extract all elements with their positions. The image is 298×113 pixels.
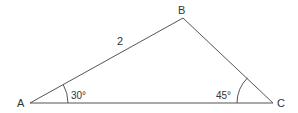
vertex-label-b: B <box>178 4 185 16</box>
angle-label-a: 30° <box>71 90 86 101</box>
side-ab <box>30 18 183 103</box>
triangle-diagram: A B C 2 30° 45° <box>0 0 298 113</box>
angle-arc-c <box>237 78 248 103</box>
side-label-ab: 2 <box>117 35 123 47</box>
vertex-label-a: A <box>17 97 25 109</box>
angle-arc-a <box>63 85 68 104</box>
vertex-label-c: C <box>277 97 285 109</box>
angle-label-c: 45° <box>216 90 231 101</box>
